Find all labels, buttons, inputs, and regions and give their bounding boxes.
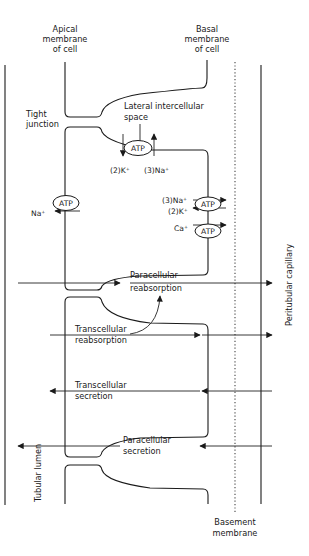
svg-text:secretion: secretion [123,446,161,456]
svg-text:ATP: ATP [201,227,215,236]
cell-3-outline [65,297,208,457]
svg-text:Paracellular: Paracellular [123,435,172,445]
svg-text:ATP: ATP [201,200,215,209]
transcellular-reabsorption-label: Transcellular reabsorption [74,324,127,345]
lateral-intercellular-space-label: Lateral intercellular space [124,101,205,122]
svg-text:ATP: ATP [59,199,73,208]
apical-atp-pump: ATP [53,196,79,211]
basal-atp-pump-2: ATP [195,224,221,238]
svg-text:Tight: Tight [25,109,47,119]
svg-text:membrane: membrane [185,34,230,44]
basement-membrane-label: Basement membrane [213,517,258,538]
basal-atp-pump-1: ATP [195,197,221,211]
tubular-lumen-label: Tubular lumen [33,444,43,503]
svg-text:Paracellular: Paracellular [130,270,179,280]
paracellular-secretion-label: Paracellular secretion [123,435,172,456]
svg-text:Basement: Basement [214,517,256,527]
reabsorption-curve-arrow [130,296,160,334]
peritubular-capillary-label: Peritubular capillary [284,244,294,326]
na-basal-label: (3)Na⁺ [162,196,187,205]
lateral-atp-pump: ATP [124,141,152,156]
svg-text:membrane: membrane [43,34,88,44]
svg-text:Lateral intercellular: Lateral intercellular [124,101,205,111]
svg-text:of cell: of cell [53,44,78,54]
basal-membrane-label: Basal membrane of cell [185,24,230,54]
renal-tubule-transport-diagram: ATP (2)K⁺ (3)Na⁺ ATP Na⁺ ATP (3)Na⁺ (2)K… [0,0,309,556]
paracellular-reabsorption-label: Paracellular reabsorption [130,270,182,293]
k-ion-label: (2)K⁺ [110,166,130,175]
svg-text:Basal: Basal [196,24,218,34]
na-ion-label: (3)Na⁺ [144,166,169,175]
svg-text:reabsorption: reabsorption [75,335,127,345]
transcellular-secretion-label: Transcellular secretion [74,380,127,401]
svg-text:Transcellular: Transcellular [74,380,127,390]
svg-text:ATP: ATP [131,144,145,153]
k-basal-label: (2)K⁺ [168,207,188,216]
svg-text:space: space [124,112,148,122]
svg-text:Apical: Apical [53,24,78,34]
cell-4-outline [65,465,208,504]
apical-membrane-label: Apical membrane of cell [43,24,88,54]
ca-basal-label: Ca⁺ [174,224,188,233]
svg-text:reabsorption: reabsorption [130,283,182,293]
svg-text:secretion: secretion [75,391,113,401]
svg-text:of cell: of cell [195,44,220,54]
svg-text:membrane: membrane [213,528,258,538]
svg-text:Transcellular: Transcellular [74,324,127,334]
na-apical-label: Na⁺ [31,209,45,218]
svg-text:junction: junction [25,119,59,129]
tight-junction-label: Tight junction [25,109,59,129]
